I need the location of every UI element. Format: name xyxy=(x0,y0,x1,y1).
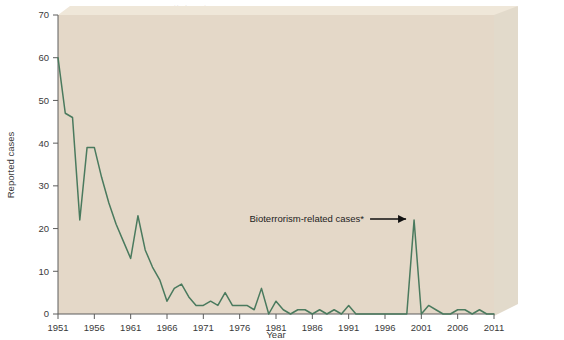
annotation-arrow xyxy=(370,215,406,223)
annotation-label: Bioterrorism-related cases* xyxy=(249,213,364,224)
y-axis-tick-labels: 010203040506070 xyxy=(38,9,49,319)
y-tick-label: 20 xyxy=(38,223,49,234)
annotation-arrow-head xyxy=(398,215,406,223)
x-tick-label: 1986 xyxy=(302,322,323,333)
chart-svg: 010203040506070 195119561961196619711976… xyxy=(0,0,564,340)
x-tick-label: 1971 xyxy=(193,322,214,333)
x-tick-label: 1961 xyxy=(120,322,141,333)
y-tick-label: 60 xyxy=(38,52,49,63)
y-tick-label: 30 xyxy=(38,180,49,191)
y-tick-label: 50 xyxy=(38,95,49,106)
x-tick-label: 1966 xyxy=(156,322,177,333)
y-tick-label: 10 xyxy=(38,266,49,277)
series-line-reported-cases xyxy=(58,58,494,314)
x-axis-title: Year xyxy=(266,329,285,340)
anthrax-reported-cases-figure: as an occupational disease of workers ha… xyxy=(0,0,564,340)
y-tick-label: 0 xyxy=(44,308,49,319)
x-tick-label: 1951 xyxy=(47,322,68,333)
y-tick-label: 70 xyxy=(38,9,49,20)
x-tick-label: 1991 xyxy=(338,322,359,333)
y-axis-title: Reported cases xyxy=(5,131,16,198)
x-tick-label: 1976 xyxy=(229,322,250,333)
x-tick-label: 1956 xyxy=(84,322,105,333)
y-axis-ticks xyxy=(53,15,58,314)
x-tick-label: 1996 xyxy=(374,322,395,333)
x-tick-label: 2001 xyxy=(411,322,432,333)
y-tick-label: 40 xyxy=(38,138,49,149)
x-tick-label: 2011 xyxy=(484,322,504,333)
x-axis-ticks xyxy=(58,314,494,319)
x-tick-label: 2006 xyxy=(447,322,468,333)
